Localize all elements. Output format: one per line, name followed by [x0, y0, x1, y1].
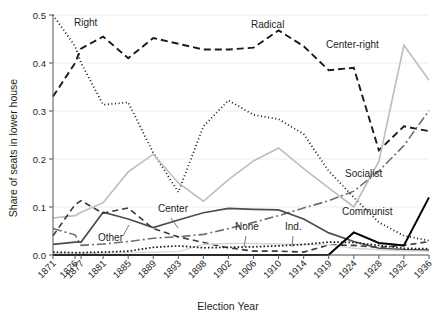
series-label-radical: Radical	[251, 19, 284, 30]
series-label-right: Right	[74, 17, 98, 28]
series-label-none: None	[235, 221, 259, 232]
gridlines	[53, 15, 429, 255]
x-tick-label: 1898	[186, 258, 209, 281]
x-tick-label: 1914	[286, 258, 309, 281]
series-label-other: Other	[98, 232, 124, 243]
series-label-communist: Communist	[342, 206, 393, 217]
chart-container: 0.00.10.20.30.40.5 187118761877188118851…	[0, 0, 436, 319]
x-axis-title: Election Year	[197, 300, 259, 312]
y-axis-title: Share of seats in lower house	[7, 79, 19, 217]
x-tick-label: 1871	[35, 258, 58, 281]
x-tick-label: 1885	[110, 258, 133, 281]
x-tick-label: 1881	[85, 258, 108, 281]
x-tick-label: 1877	[63, 258, 86, 281]
series-label-center: Center	[158, 203, 189, 214]
y-tick-label: 0.4	[33, 58, 46, 69]
x-tick-label: 1906	[236, 258, 259, 281]
series-layer	[53, 15, 429, 255]
axes-layer	[53, 15, 429, 255]
annotation-leader	[123, 225, 129, 236]
x-tick-label: 1919	[311, 258, 334, 281]
x-axis-ticks: 1871187618771881188518891893189819021906…	[35, 255, 434, 280]
annotation-leader	[292, 236, 293, 247]
series-label-socialist: Socialist	[345, 168, 382, 179]
x-tick-label: 1889	[135, 258, 158, 281]
x-tick-label: 1932	[386, 258, 409, 281]
y-tick-label: 0.5	[33, 10, 46, 21]
y-axis-ticks: 0.00.10.20.30.40.5	[33, 10, 53, 261]
x-tick-label: 1902	[211, 258, 234, 281]
x-tick-label: 1928	[361, 258, 384, 281]
x-tick-label: 1893	[161, 258, 184, 281]
y-tick-label: 0.1	[33, 202, 46, 213]
x-tick-label: 1936	[411, 258, 434, 281]
x-tick-label: 1924	[336, 258, 359, 281]
election-seat-share-line-chart: 0.00.10.20.30.40.5 187118761877188118851…	[0, 0, 436, 319]
y-tick-label: 0.2	[33, 154, 46, 165]
y-tick-label: 0.0	[33, 250, 46, 261]
y-tick-label: 0.3	[33, 106, 46, 117]
series-label-center-right: Center-right	[326, 39, 379, 50]
series-label-ind-: Ind.	[285, 221, 302, 232]
x-tick-label: 1910	[261, 258, 284, 281]
annotation-leader	[244, 236, 246, 247]
